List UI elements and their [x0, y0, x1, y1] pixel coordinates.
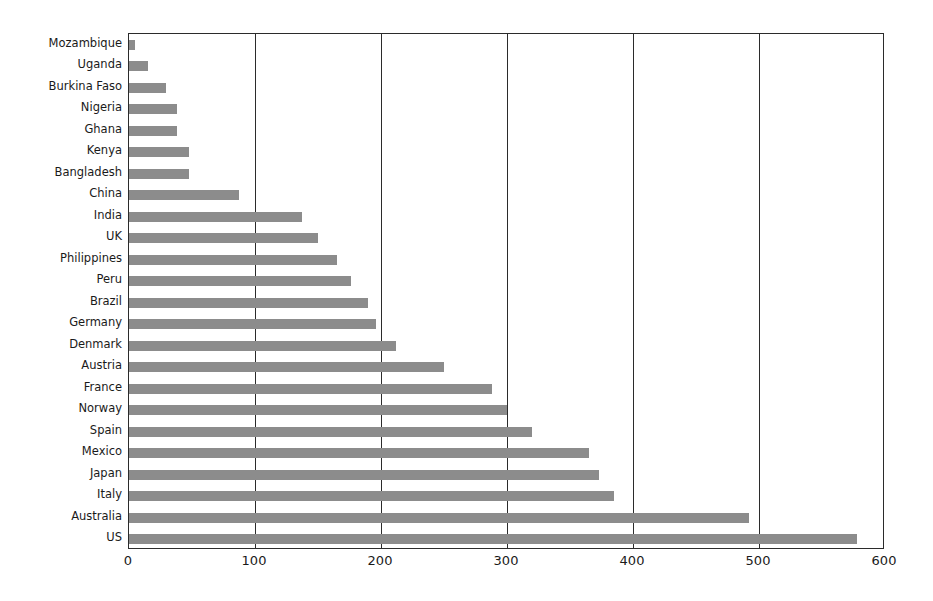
bar-row: [129, 77, 883, 99]
y-axis-label: Denmark: [2, 339, 122, 351]
y-axis-label: Mozambique: [2, 38, 122, 50]
y-axis-label: Brazil: [2, 296, 122, 308]
bar-row: [129, 507, 883, 529]
bar-row: [129, 443, 883, 465]
y-axis-label: UK: [2, 231, 122, 243]
bar-row: [129, 34, 883, 56]
bar: [129, 362, 444, 372]
bar: [129, 61, 148, 71]
bar: [129, 255, 337, 265]
bar-row: [129, 486, 883, 508]
bar: [129, 298, 368, 308]
y-axis-label: Spain: [2, 425, 122, 437]
bar-row: [129, 378, 883, 400]
bar-row: [129, 185, 883, 207]
bar-row: [129, 99, 883, 121]
y-axis-label: Peru: [2, 274, 122, 286]
x-tick-label: 200: [368, 553, 393, 569]
x-tick-label: 500: [746, 553, 771, 569]
plot-area: [128, 33, 884, 549]
y-axis-label: Japan: [2, 468, 122, 480]
bar: [129, 169, 189, 179]
bar-row: [129, 400, 883, 422]
y-axis-label: Italy: [2, 489, 122, 501]
bar: [129, 491, 614, 501]
bar-row: [129, 335, 883, 357]
bar-row: [129, 142, 883, 164]
bar-row: [129, 314, 883, 336]
bar: [129, 190, 239, 200]
bar: [129, 147, 189, 157]
bar-row: [129, 271, 883, 293]
y-axis-label: Germany: [2, 317, 122, 329]
bar-row: [129, 529, 883, 551]
bar: [129, 534, 857, 544]
bar: [129, 427, 532, 437]
bar-row: [129, 206, 883, 228]
bar-row: [129, 357, 883, 379]
y-axis-label: Bangladesh: [2, 167, 122, 179]
bar: [129, 276, 351, 286]
y-axis-label: India: [2, 210, 122, 222]
bar: [129, 40, 135, 50]
x-axis-tick-labels: 0100200300400500600: [0, 553, 933, 577]
y-axis-label: Ghana: [2, 124, 122, 136]
bar: [129, 104, 177, 114]
y-axis-label: Norway: [2, 403, 122, 415]
y-axis-label: Burkina Faso: [2, 81, 122, 93]
bar: [129, 319, 376, 329]
y-axis-label: Nigeria: [2, 102, 122, 114]
bar: [129, 384, 492, 394]
bar-row: [129, 163, 883, 185]
bar: [129, 470, 599, 480]
bar-row: [129, 249, 883, 271]
y-axis-label: Uganda: [2, 59, 122, 71]
bar: [129, 341, 396, 351]
y-axis-label: China: [2, 188, 122, 200]
bar: [129, 233, 318, 243]
y-axis-label: Australia: [2, 511, 122, 523]
x-tick-label: 0: [124, 553, 132, 569]
bar: [129, 83, 166, 93]
bar-row: [129, 464, 883, 486]
horizontal-bar-chart: MozambiqueUgandaBurkina FasoNigeriaGhana…: [0, 0, 933, 601]
x-tick-label: 300: [494, 553, 519, 569]
bar: [129, 126, 177, 136]
y-axis-label: Philippines: [2, 253, 122, 265]
bar: [129, 212, 302, 222]
x-tick-label: 400: [620, 553, 645, 569]
bar-row: [129, 292, 883, 314]
bar: [129, 513, 749, 523]
y-axis-category-labels: MozambiqueUgandaBurkina FasoNigeriaGhana…: [0, 33, 122, 549]
bar: [129, 405, 507, 415]
y-axis-label: US: [2, 532, 122, 544]
y-axis-label: France: [2, 382, 122, 394]
y-axis-label: Mexico: [2, 446, 122, 458]
bar-row: [129, 56, 883, 78]
bar-row: [129, 120, 883, 142]
x-tick-label: 100: [242, 553, 267, 569]
x-tick-label: 600: [872, 553, 897, 569]
bar: [129, 448, 589, 458]
y-axis-label: Kenya: [2, 145, 122, 157]
bar-row: [129, 228, 883, 250]
bar-row: [129, 421, 883, 443]
y-axis-label: Austria: [2, 360, 122, 372]
